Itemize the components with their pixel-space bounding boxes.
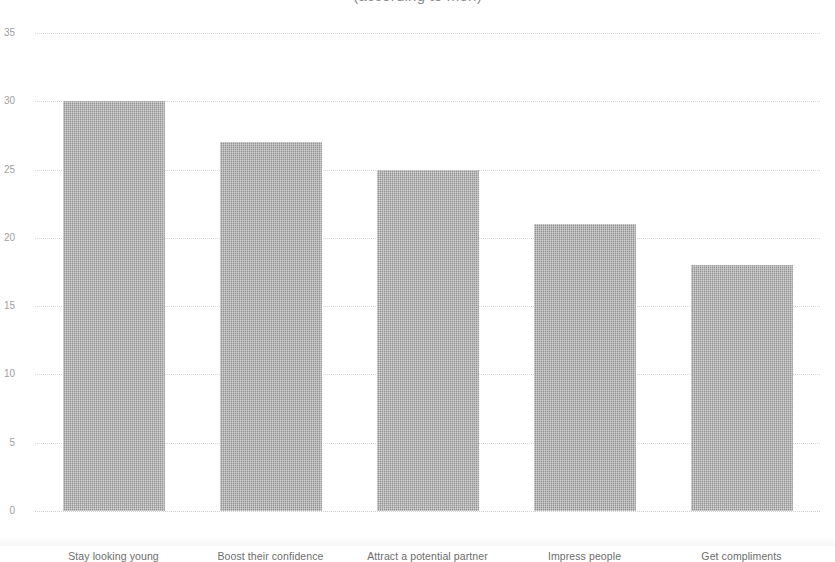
bar-slot bbox=[220, 33, 322, 511]
y-axis-tick-label: 5 bbox=[0, 437, 15, 448]
x-axis-category-label: Get compliments bbox=[663, 550, 820, 562]
bar[interactable] bbox=[63, 101, 165, 511]
x-axis-category-label: Attract a potential partner bbox=[349, 550, 506, 562]
bars-group bbox=[35, 33, 820, 511]
bar-slot bbox=[377, 33, 479, 511]
bar[interactable] bbox=[220, 142, 322, 511]
bar-slot bbox=[691, 33, 793, 511]
x-axis-category-label: Stay looking young bbox=[35, 550, 192, 562]
bar[interactable] bbox=[534, 224, 636, 511]
bar[interactable] bbox=[377, 170, 479, 511]
x-axis-category-label: Boost their confidence bbox=[192, 550, 349, 562]
gridline bbox=[35, 511, 820, 512]
chart-title: (according to men) bbox=[0, 0, 835, 4]
y-axis-tick-label: 0 bbox=[0, 505, 15, 516]
y-axis-tick-label: 30 bbox=[0, 95, 15, 106]
y-axis-tick-label: 35 bbox=[0, 27, 15, 38]
paper-edge-shading bbox=[0, 536, 835, 546]
y-axis-tick-label: 25 bbox=[0, 164, 15, 175]
x-axis-category-label: Impress people bbox=[506, 550, 663, 562]
plot-area: 05101520253035 Stay looking youngBoost t… bbox=[35, 33, 820, 511]
y-axis-tick-label: 15 bbox=[0, 300, 15, 311]
bar-slot bbox=[534, 33, 636, 511]
y-axis-tick-label: 20 bbox=[0, 232, 15, 243]
bar-slot bbox=[63, 33, 165, 511]
bar[interactable] bbox=[691, 265, 793, 511]
y-axis-tick-label: 10 bbox=[0, 368, 15, 379]
